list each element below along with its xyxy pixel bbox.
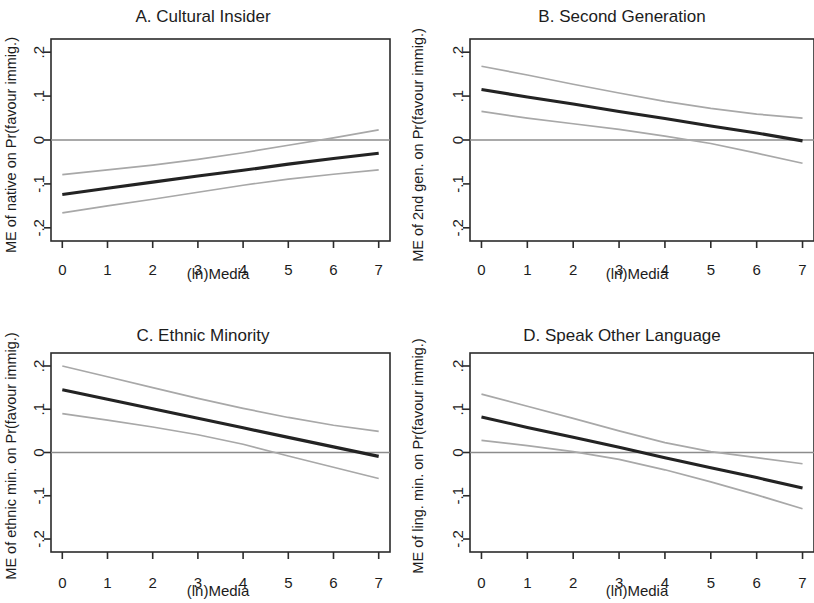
y-tick-label: -.2: [449, 530, 466, 548]
panel-cultural-insider: A. Cultural Insider ME of native on Pr(f…: [0, 0, 407, 301]
x-tick-label: 6: [752, 261, 760, 278]
x-tick-label: 7: [798, 261, 806, 278]
panel-c-chart: C. Ethnic Minority ME of ethnic min. on …: [0, 301, 407, 602]
panel-c-axes: -.2-.10.1.201234567: [30, 353, 390, 591]
panel-c-title: C. Ethnic Minority: [136, 326, 270, 345]
confidence-interval-line: [62, 130, 378, 175]
confidence-interval-line: [481, 111, 802, 163]
y-tick-label: 0: [30, 136, 47, 144]
marginal-effect-line: [62, 390, 378, 457]
x-tick-label: 4: [661, 574, 669, 591]
panel-speak-other-language: D. Speak Other Language ME of ling. min.…: [407, 301, 814, 602]
y-tick-label: .2: [449, 360, 466, 373]
confidence-interval-line: [62, 170, 378, 213]
panel-d-title: D. Speak Other Language: [523, 326, 721, 345]
y-tick-label: -.1: [30, 175, 47, 193]
x-tick-label: 2: [569, 261, 577, 278]
x-tick-label: 5: [707, 574, 715, 591]
y-tick-label: .1: [449, 403, 466, 416]
confidence-interval-line: [481, 440, 802, 508]
x-tick-label: 2: [569, 574, 577, 591]
x-tick-label: 3: [194, 261, 202, 278]
panel-b-ylabel: ME of 2nd gen. on Pr(favour immig.): [410, 28, 426, 262]
panel-a-title: A. Cultural Insider: [135, 7, 270, 26]
x-tick-label: 2: [149, 574, 157, 591]
x-tick-label: 5: [284, 574, 292, 591]
x-tick-label: 4: [239, 574, 247, 591]
marginal-effects-figure: A. Cultural Insider ME of native on Pr(f…: [0, 0, 814, 603]
y-tick-label: 0: [30, 448, 47, 456]
panel-a-plot: [51, 130, 390, 213]
y-tick-label: .1: [30, 403, 47, 416]
x-tick-label: 0: [58, 574, 66, 591]
y-tick-label: -.1: [30, 487, 47, 505]
panel-d-ylabel: ME of ling. min. on Pr(favour immig.): [410, 338, 426, 573]
panel-d-plot: [470, 394, 814, 509]
x-tick-label: 5: [284, 261, 292, 278]
x-tick-label: 1: [523, 261, 531, 278]
y-tick-label: .1: [30, 90, 47, 103]
y-tick-label: 0: [449, 136, 466, 144]
panel-c-ylabel: ME of ethnic min. on Pr(favour immig.): [3, 332, 19, 579]
x-tick-label: 3: [615, 261, 623, 278]
x-tick-label: 6: [329, 261, 337, 278]
panel-d-axes: -.2-.10.1.201234567: [449, 353, 814, 591]
panel-b-plot: [470, 66, 814, 163]
panel-c-plot: [51, 366, 390, 478]
panel-d-chart: D. Speak Other Language ME of ling. min.…: [407, 301, 814, 602]
y-tick-label: .2: [30, 360, 47, 373]
y-tick-label: -.1: [449, 487, 466, 505]
panel-a-ylabel: ME of native on Pr(favour immig.): [3, 37, 19, 253]
x-tick-label: 0: [58, 261, 66, 278]
y-tick-label: -.2: [30, 530, 47, 548]
x-tick-label: 7: [798, 574, 806, 591]
panel-second-generation: B. Second Generation ME of 2nd gen. on P…: [407, 0, 814, 301]
y-tick-label: -.2: [449, 219, 466, 237]
confidence-interval-line: [481, 66, 802, 118]
y-tick-label: -.2: [30, 219, 47, 237]
x-tick-label: 4: [239, 261, 247, 278]
x-tick-label: 0: [477, 261, 485, 278]
x-tick-label: 4: [661, 261, 669, 278]
x-tick-label: 5: [707, 261, 715, 278]
x-tick-label: 1: [103, 261, 111, 278]
x-tick-label: 0: [477, 574, 485, 591]
y-tick-label: .2: [30, 46, 47, 59]
x-tick-label: 3: [194, 574, 202, 591]
y-tick-label: .1: [449, 90, 466, 103]
y-tick-label: 0: [449, 448, 466, 456]
x-tick-label: 3: [615, 574, 623, 591]
y-tick-label: -.1: [449, 175, 466, 193]
x-tick-label: 2: [149, 261, 157, 278]
panel-b-title: B. Second Generation: [538, 7, 705, 26]
panel-b-axes: -.2-.10.1.201234567: [449, 39, 814, 278]
x-tick-label: 6: [329, 574, 337, 591]
panel-ethnic-minority: C. Ethnic Minority ME of ethnic min. on …: [0, 301, 407, 602]
x-tick-label: 6: [752, 574, 760, 591]
x-tick-label: 1: [523, 574, 531, 591]
y-tick-label: .2: [449, 46, 466, 59]
panel-a-chart: A. Cultural Insider ME of native on Pr(f…: [0, 0, 407, 301]
x-tick-label: 7: [375, 574, 383, 591]
panel-b-chart: B. Second Generation ME of 2nd gen. on P…: [407, 0, 814, 301]
x-tick-label: 1: [103, 574, 111, 591]
x-tick-label: 7: [375, 261, 383, 278]
